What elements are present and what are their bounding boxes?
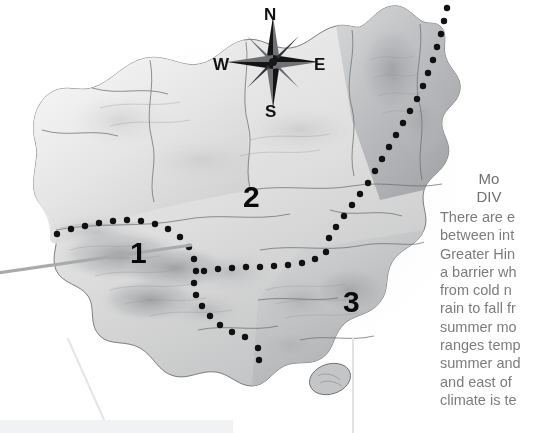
panel-body-line: and east of — [440, 373, 538, 391]
panel-heading: Mo DIV — [440, 170, 538, 206]
compass-west-label: W — [213, 56, 229, 73]
compass-east-label: E — [314, 56, 325, 73]
panel-body-line: summer mo — [440, 318, 538, 336]
region-label-1: 1 — [130, 238, 147, 268]
panel-body-line: a barrier wh — [440, 263, 538, 281]
panel-body-line: There are e — [440, 208, 538, 226]
panel-body-line: ranges temp — [440, 336, 538, 354]
compass-south-label: S — [265, 103, 276, 120]
region-label-3: 3 — [343, 287, 360, 317]
panel-heading-line-2: DIV — [440, 188, 538, 206]
panel-body-line: Greater Hin — [440, 245, 538, 263]
callout-box-bottom-left — [0, 420, 233, 433]
map-figure: N S W E 1 2 3 Mo DIV There are e between… — [0, 0, 538, 433]
panel-body-line: summer and — [440, 354, 538, 372]
panel-body-line: rain to fall fr — [440, 299, 538, 317]
side-text-panel: Mo DIV There are e between int Greater H… — [440, 170, 538, 428]
panel-body-line: climate is te — [440, 391, 538, 409]
compass-rose: N S W E — [213, 6, 333, 118]
compass-north-label: N — [264, 6, 276, 23]
leader-line-southeast — [352, 338, 354, 433]
panel-body-text: There are e between int Greater Hin a ba… — [440, 208, 538, 409]
panel-body-line: from cold n — [440, 281, 538, 299]
region-label-2: 2 — [243, 182, 260, 212]
panel-body-line: between int — [440, 226, 538, 244]
panel-heading-line-1: Mo — [440, 170, 538, 188]
